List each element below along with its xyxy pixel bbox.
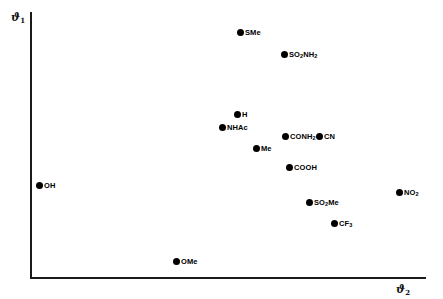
data-point: CONH2 <box>282 133 316 141</box>
data-point-marker <box>234 111 241 118</box>
data-point-label: COOH <box>294 164 317 172</box>
data-point: Me <box>253 145 272 153</box>
data-point-marker <box>286 164 293 171</box>
data-point-marker <box>331 220 338 227</box>
data-point-marker <box>237 29 244 36</box>
data-point: CF3 <box>331 220 353 228</box>
x-axis-label-symbol: ϑ <box>396 283 405 296</box>
data-point-label: SO2NH2 <box>289 51 317 59</box>
data-point-label: SO2Me <box>314 199 339 207</box>
data-point-marker <box>173 258 180 265</box>
x-axis-label-subscript: 2 <box>405 288 410 297</box>
data-point: COOH <box>286 164 317 172</box>
data-point-label: CF3 <box>339 220 352 228</box>
data-point: OMe <box>173 258 198 266</box>
data-point-marker <box>316 133 323 140</box>
data-point: OH <box>36 182 56 190</box>
data-point-label: H <box>242 111 248 119</box>
data-point-marker <box>282 133 289 140</box>
y-axis-label-subscript: 1 <box>20 16 25 25</box>
y-axis-label: ϑ1 <box>11 12 25 24</box>
x-axis-line <box>30 277 426 279</box>
data-point-label: CN <box>324 133 335 141</box>
data-point: NHAc <box>219 124 248 132</box>
data-point: CN <box>316 133 336 141</box>
data-point-label: OMe <box>181 258 198 266</box>
data-point-label: OH <box>44 182 55 190</box>
data-point: NO2 <box>396 189 419 197</box>
data-point-marker <box>36 182 43 189</box>
y-axis-line <box>30 12 32 279</box>
data-point: H <box>234 111 248 119</box>
data-point: SO2NH2 <box>281 51 318 59</box>
data-point-marker <box>306 199 313 206</box>
data-point-label: CONH2 <box>290 133 316 141</box>
y-axis-label-symbol: ϑ <box>11 11 20 24</box>
data-point-label: NO2 <box>404 189 419 197</box>
data-point-label: Me <box>261 145 272 153</box>
data-point-marker <box>253 145 260 152</box>
data-point-label: NHAc <box>227 124 248 132</box>
data-point-marker <box>219 124 226 131</box>
data-point: SO2Me <box>306 199 339 207</box>
data-point-marker <box>396 189 403 196</box>
data-point-label: SMe <box>245 29 261 37</box>
data-point: SMe <box>237 29 261 37</box>
data-point-marker <box>281 51 288 58</box>
scatter-plot: ϑ1 ϑ2 SMeSO2NH2HNHAcCONH2CNMeCOOHOHNO2SO… <box>0 0 443 299</box>
x-axis-label: ϑ2 <box>396 284 410 296</box>
